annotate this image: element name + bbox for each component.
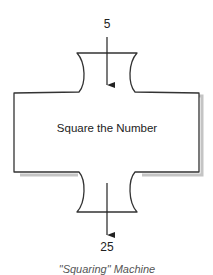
diagram-caption: "Squaring" Machine (40, 263, 174, 275)
process-label: Square the Number (14, 122, 200, 134)
input-value-label: 5 (97, 17, 117, 31)
output-value-label: 25 (92, 240, 122, 254)
